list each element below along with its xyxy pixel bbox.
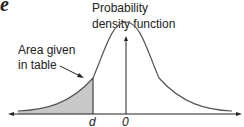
x-axis-right-arrow-icon xyxy=(236,112,242,116)
annotation-arrow-icon xyxy=(77,73,84,78)
annotation-pointer xyxy=(60,66,80,76)
y-axis-arrow-icon xyxy=(124,36,128,41)
x-axis-left-arrow-icon xyxy=(8,112,14,116)
normal-curve-plot xyxy=(0,0,244,127)
shaded-area xyxy=(18,78,93,114)
density-curve xyxy=(18,22,232,111)
